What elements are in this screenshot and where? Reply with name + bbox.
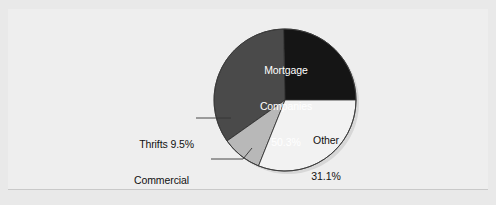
pie-label-commercial-banks: Commercial Banks 9.1% [134, 148, 210, 205]
pie-label-other: Other 31.1% [296, 110, 356, 205]
pie-chart-figure: Mortgage Companies 50.3% Other 31.1% Thr… [0, 0, 496, 205]
pie-label-commercial-banks-line1: Commercial [134, 174, 210, 187]
pie-label-other-line1: Other [296, 134, 356, 146]
pie-label-other-value: 31.1% [296, 170, 356, 182]
pie-label-mortgage-companies-line1: Mortgage [236, 64, 336, 76]
